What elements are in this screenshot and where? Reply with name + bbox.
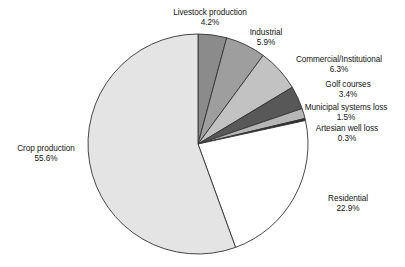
pie-chart-figure: Livestock production 4.2% Industrial 5.9… [0, 0, 405, 267]
pie-label-golf-courses-value: 3.4% [297, 90, 399, 100]
pie-label-commercial-institutional-name: Commercial/Institutional [276, 55, 402, 65]
pie-label-municipal-systems-loss: Municipal systems loss 1.5% [289, 103, 403, 123]
pie-label-residential-value: 22.9% [312, 204, 384, 214]
pie-label-municipal-systems-loss-value: 1.5% [289, 113, 403, 123]
pie-label-artesian-well-loss-value: 0.3% [296, 134, 398, 144]
pie-label-golf-courses-name: Golf courses [297, 80, 399, 90]
pie-label-crop-production-value: 55.6% [4, 154, 88, 164]
pie-label-municipal-systems-loss-name: Municipal systems loss [289, 103, 403, 113]
pie-label-livestock-production-name: Livestock production [150, 8, 270, 18]
pie-label-crop-production: Crop production 55.6% [4, 144, 88, 164]
pie-label-livestock-production-value: 4.2% [150, 18, 270, 28]
pie-label-industrial-value: 5.9% [229, 38, 303, 48]
pie-label-crop-production-name: Crop production [4, 144, 88, 154]
pie-label-residential: Residential 22.9% [312, 194, 384, 214]
pie-label-residential-name: Residential [312, 194, 384, 204]
pie-slice-group [88, 34, 308, 254]
pie-label-artesian-well-loss: Artesian well loss 0.3% [296, 124, 398, 144]
pie-label-industrial-name: Industrial [229, 28, 303, 38]
pie-label-industrial: Industrial 5.9% [229, 28, 303, 48]
pie-label-commercial-institutional-value: 6.3% [276, 65, 402, 75]
pie-label-livestock-production: Livestock production 4.2% [150, 8, 270, 28]
pie-label-golf-courses: Golf courses 3.4% [297, 80, 399, 100]
pie-label-commercial-institutional: Commercial/Institutional 6.3% [276, 55, 402, 75]
pie-label-artesian-well-loss-name: Artesian well loss [296, 124, 398, 134]
